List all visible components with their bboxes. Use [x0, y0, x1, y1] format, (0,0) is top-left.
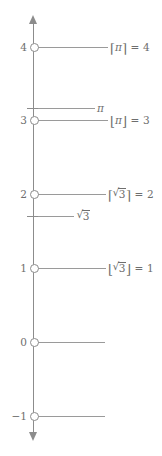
ceil-pi-value: 4 [143, 41, 150, 53]
number-line-figure: 4 ⌈π⌉ = 4 π 3 ⌊π⌋ = 3 2 ⌈3⌉ = 2 3 1 ⌊3⌋ … [0, 0, 162, 456]
axis-tick-label-1: 1 [0, 263, 27, 274]
sqrt-icon: 3 [113, 262, 126, 275]
tick-number: 1 [5, 263, 27, 274]
arrow-up-icon [29, 15, 37, 24]
sqrt-icon: 3 [77, 210, 90, 223]
connector-rule-floor-sqrt3 [38, 268, 106, 269]
annotation-sqrt3-mark: 3 [77, 210, 90, 223]
tick-number: 2 [5, 189, 27, 200]
connector-rule-floor-pi [38, 120, 108, 121]
axis-tick-label-3: 3 [0, 115, 27, 126]
annotation-floor-pi: ⌊π⌋ = 3 [110, 115, 150, 128]
connector-rule-ceil-sqrt3 [38, 194, 106, 195]
vertical-axis-line [33, 22, 34, 436]
radicand: 3 [118, 262, 126, 275]
equals-sign: = [135, 262, 144, 274]
ceil-sqrt3-value: 2 [147, 188, 154, 200]
tick-number: 3 [5, 115, 27, 126]
floor-pi-value: 3 [143, 114, 150, 126]
annotation-pi-mark: π [97, 103, 104, 114]
pi-symbol: π [115, 41, 122, 53]
annotation-ceil-pi: ⌈π⌉ = 4 [110, 42, 150, 55]
tick-number: 0 [5, 337, 27, 348]
axis-tick-label-4: 4 [0, 42, 27, 53]
connector-rule-pi [38, 108, 95, 109]
axis-tick-label-minus-1: −1 [0, 411, 27, 422]
annotation-ceil-sqrt3: ⌈3⌉ = 2 [108, 188, 154, 202]
tick-number: −1 [5, 411, 27, 422]
connector-rule-sqrt3 [38, 216, 74, 217]
connector-rule-zero [38, 342, 105, 343]
arrow-down-icon [29, 432, 37, 441]
equals-sign: = [131, 41, 140, 53]
axis-tick-label-0: 0 [0, 337, 27, 348]
equals-sign: = [131, 114, 140, 126]
sqrt-icon: 3 [113, 188, 126, 201]
floor-sqrt3-value: 1 [147, 262, 154, 274]
connector-rule-minus-one [38, 416, 105, 417]
connector-rule-ceil-pi [38, 47, 108, 48]
radicand: 3 [82, 210, 90, 223]
pi-label: π [97, 102, 104, 114]
radicand: 3 [118, 188, 126, 201]
pi-symbol: π [115, 114, 122, 126]
tick-number: 4 [5, 42, 27, 53]
annotation-floor-sqrt3: ⌊3⌋ = 1 [108, 262, 154, 276]
axis-tick-label-2: 2 [0, 189, 27, 200]
equals-sign: = [135, 188, 144, 200]
